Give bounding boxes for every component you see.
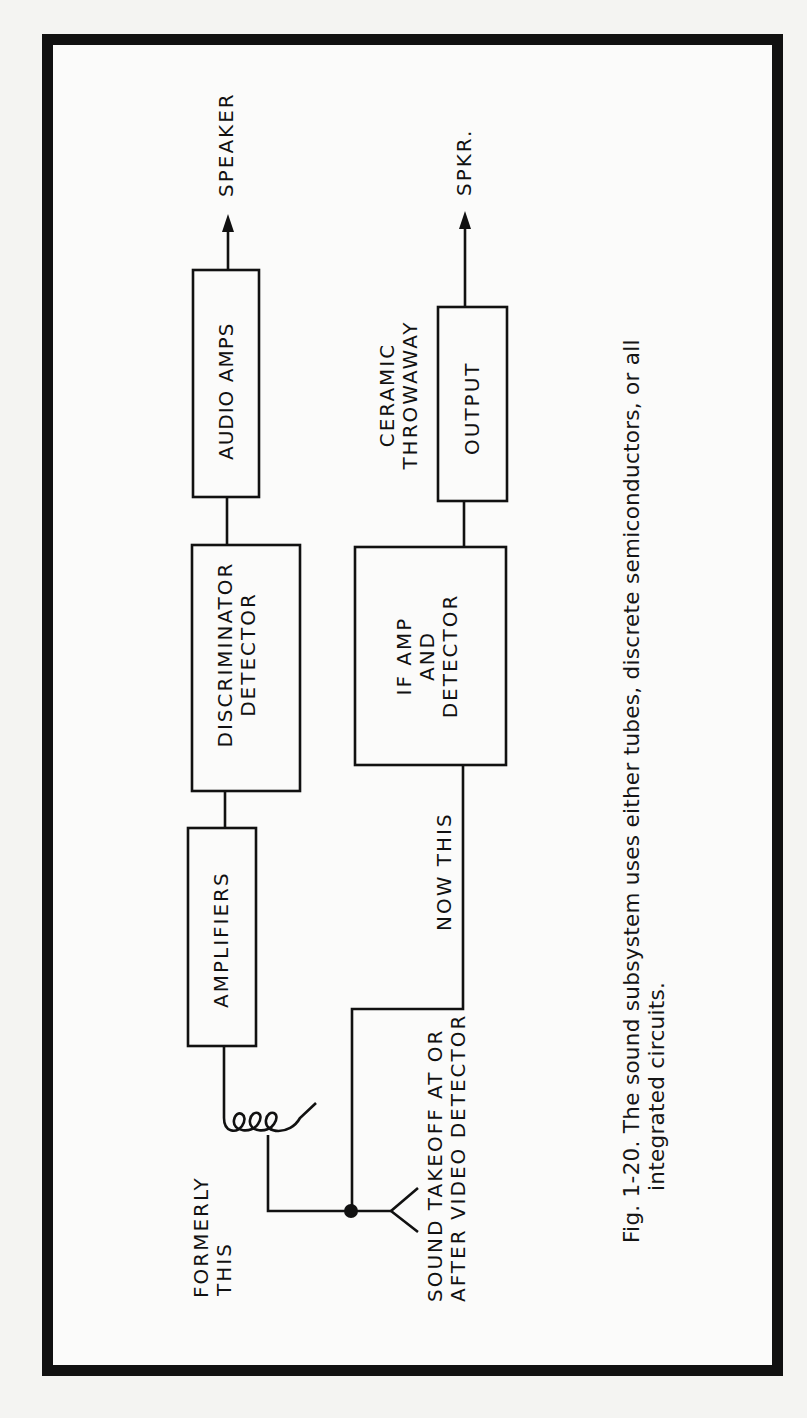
if-amp-detector-label: IF AMP AND DETECTOR: [393, 581, 462, 731]
speaker-label: SPEAKER: [215, 92, 238, 197]
ceramic-text: CERAMIC: [376, 320, 399, 470]
ceramic-throwaway-label: CERAMIC THROWAWAY: [376, 320, 422, 470]
now-this-label: NOW THIS: [433, 812, 456, 931]
junction-dot: [344, 1204, 358, 1218]
speaker-arrow-icon: [222, 214, 234, 232]
if-detector-text: DETECTOR: [439, 581, 462, 731]
sound-takeoff-label: SOUND TAKEOFF AT OR AFTER VIDEO DETECTOR: [424, 1014, 470, 1302]
audio-amps-text: AUDIO AMPS: [215, 323, 238, 460]
this-text: THIS: [213, 1176, 236, 1298]
audio-amps-label: AUDIO AMPS: [215, 323, 238, 460]
and-text: AND: [416, 581, 439, 731]
caption-line-2: integrated circuits.: [644, 339, 669, 1243]
takeoff-fork-icon: [391, 1188, 418, 1232]
speaker-text: SPEAKER: [215, 92, 238, 197]
if-amp-text: IF AMP: [393, 581, 416, 731]
throwaway-text: THROWAWAY: [399, 320, 422, 470]
figure-caption: Fig. 1-20. The sound subsystem uses eith…: [619, 339, 669, 1243]
now-this-text: NOW THIS: [433, 812, 456, 931]
output-label: OUTPUT: [461, 361, 484, 455]
sound-takeoff-text: SOUND TAKEOFF AT OR: [424, 1014, 447, 1302]
spkr-arrow-icon: [459, 211, 471, 229]
amplifiers-label: AMPLIFIERS: [210, 871, 233, 1008]
output-text: OUTPUT: [461, 361, 484, 455]
discriminator-text: DISCRIMINATOR: [214, 542, 237, 767]
spkr-text: SPKR.: [453, 129, 476, 196]
after-video-detector-text: AFTER VIDEO DETECTOR: [447, 1014, 470, 1302]
coil-icon: [224, 1046, 316, 1131]
amplifiers-text: AMPLIFIERS: [210, 871, 233, 1008]
discriminator-detector-label: DISCRIMINATOR DETECTOR: [214, 542, 260, 767]
formerly-this-label: FORMERLY THIS: [190, 1176, 236, 1298]
spkr-label: SPKR.: [453, 129, 476, 196]
formerly-text: FORMERLY: [190, 1176, 213, 1298]
caption-line-1: Fig. 1-20. The sound subsystem uses eith…: [619, 339, 644, 1243]
coil-return-line: [268, 1135, 351, 1211]
detector-text: DETECTOR: [237, 542, 260, 767]
